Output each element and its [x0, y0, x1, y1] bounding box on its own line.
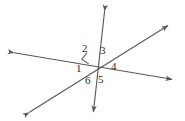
angle-label-2: 2: [82, 43, 88, 54]
geometry-figure: 1 2 3 4 5 6: [0, 0, 185, 121]
angle-label-1: 1: [76, 63, 82, 74]
angle-label-3: 3: [100, 45, 106, 56]
angle-label-6: 6: [85, 75, 91, 86]
angle-label-4: 4: [111, 61, 117, 72]
line-group: [14, 11, 172, 113]
vertical-line: [93, 11, 104, 112]
angle-label-5: 5: [98, 74, 104, 85]
horizontal-line: [14, 53, 172, 80]
figure-canvas: [0, 0, 185, 121]
right-angle-marker: [82, 53, 89, 64]
